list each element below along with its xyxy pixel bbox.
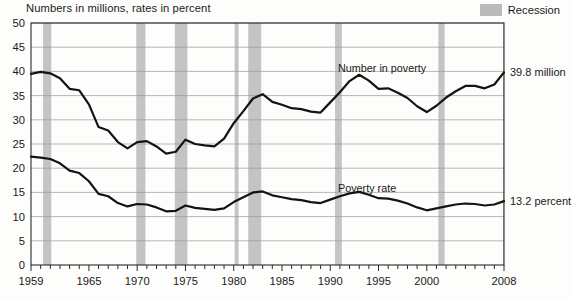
series-line-poverty-rate	[31, 157, 504, 212]
y-axis-tick-label: 0	[19, 259, 25, 271]
y-axis-tick-label: 5	[19, 235, 25, 247]
y-axis-tick-label: 15	[13, 186, 25, 198]
x-axis-tick-label: 1959	[19, 275, 44, 287]
x-axis-tick-label: 2008	[492, 275, 517, 287]
poverty-chart-figure: Numbers in millions, rates in percent Re…	[0, 0, 572, 299]
x-axis-tick-label: 1965	[76, 275, 101, 287]
y-axis-tick-label: 25	[13, 138, 25, 150]
x-axis-tick-label: 1975	[173, 275, 198, 287]
chart-canvas: 0510152025303540455019591965197019751980…	[0, 0, 572, 299]
y-axis-tick-label: 30	[13, 114, 25, 126]
end-label-number-in-poverty: 39.8 million	[510, 66, 566, 78]
y-axis-tick-label: 45	[13, 41, 25, 53]
x-axis-tick-label: 1980	[221, 275, 246, 287]
x-axis-tick-label: 1990	[318, 275, 343, 287]
end-label-poverty-rate: 13.2 percent	[510, 195, 571, 207]
series-line-number-in-poverty	[31, 72, 504, 154]
x-axis-tick-label: 2000	[414, 275, 439, 287]
x-axis-tick-label: 1985	[270, 275, 295, 287]
y-axis-tick-label: 20	[13, 162, 25, 174]
series-label-number-in-poverty: Number in poverty	[338, 62, 427, 74]
y-axis-tick-label: 40	[13, 65, 25, 77]
chart-svg: 0510152025303540455019591965197019751980…	[0, 0, 572, 299]
y-axis-tick-label: 50	[13, 17, 25, 29]
x-axis-tick-label: 1995	[366, 275, 391, 287]
x-axis-tick-label: 1970	[125, 275, 150, 287]
series-label-poverty-rate: Poverty rate	[338, 182, 396, 194]
y-axis-tick-label: 35	[13, 90, 25, 102]
y-axis-tick-label: 10	[13, 211, 25, 223]
